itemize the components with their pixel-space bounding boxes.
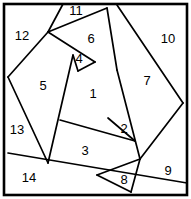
region-7-label: 7 <box>143 73 150 88</box>
region-3-label: 3 <box>81 143 88 158</box>
region-2-label: 2 <box>120 121 127 136</box>
region-13-label: 13 <box>10 122 24 137</box>
region-9-label: 9 <box>164 163 171 178</box>
region-1-label: 1 <box>89 86 96 101</box>
region-11-label: 11 <box>69 3 83 18</box>
region-4-label: 4 <box>75 51 82 66</box>
diagram-canvas: 1234567891011121314 <box>0 0 191 199</box>
region-12-label: 12 <box>15 28 29 43</box>
region-8-label: 8 <box>120 172 127 187</box>
region-6-label: 6 <box>87 31 94 46</box>
partition-diagram: 1234567891011121314 <box>0 0 191 199</box>
region-5-label: 5 <box>39 78 46 93</box>
region-10-label: 10 <box>161 31 175 46</box>
region-14-label: 14 <box>22 170 36 185</box>
